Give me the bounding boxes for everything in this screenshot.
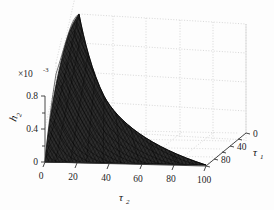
z-tick-label-80: 80 (221, 155, 231, 165)
x-axis-title: τ 2 (119, 191, 130, 206)
surface-mesh (45, 14, 206, 175)
y-exponent-base: ×10 (18, 69, 33, 79)
z-axis-title: τ 1 (253, 146, 264, 161)
y-axis-ticks (41, 96, 45, 162)
x-tick-label-40: 40 (101, 173, 111, 183)
surface-plot-figure: 0 0.4 0.8 ×10 -3 h 2 0 20 40 60 80 100 (0, 0, 274, 210)
x-tick-label-0: 0 (39, 171, 44, 181)
x-tick-label-100: 100 (197, 175, 212, 185)
surface-cross-mesh (45, 14, 206, 165)
x-tick-label-20: 20 (68, 172, 78, 182)
plot-canvas: 0 0.4 0.8 ×10 -3 h 2 0 20 40 60 80 100 (0, 0, 274, 210)
y-axis-title: h 2 (6, 109, 23, 123)
x-tick-label-60: 60 (133, 174, 143, 184)
y-tick-label-0: 0 (33, 157, 38, 167)
y-tick-label-0-8: 0.8 (26, 91, 38, 101)
z-axis-title-subscript: 1 (260, 153, 264, 161)
y-exponent-power: -3 (43, 66, 49, 73)
z-axis-title-symbol: τ (253, 146, 258, 158)
x-axis-title-symbol: τ (119, 191, 124, 203)
z-tick-label-40: 40 (237, 142, 247, 152)
x-tick-label-80: 80 (166, 174, 176, 184)
y-tick-label-0-4: 0.4 (26, 124, 38, 134)
z-tick-label-0: 0 (253, 129, 258, 139)
x-axis-title-subscript: 2 (126, 198, 130, 206)
y-axis-exponent: ×10 -3 (18, 66, 49, 79)
